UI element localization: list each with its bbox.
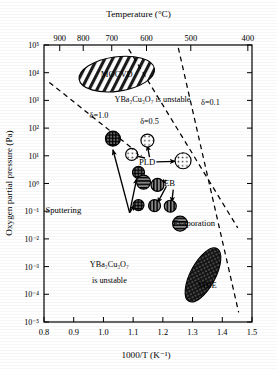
x-tick-label: 1.5 bbox=[247, 328, 257, 337]
x-tick-label: 0.9 bbox=[68, 328, 78, 337]
top-tick-label: 500 bbox=[185, 34, 198, 43]
marker-sputtering-f bbox=[133, 200, 144, 211]
x-tick-label: 1.4 bbox=[217, 328, 228, 337]
chart-labels: δ=1.0δ=0.5δ=0.1YBa₂Cu₃O₇ is unstableYBa₂… bbox=[45, 69, 219, 290]
y-tick-label: 10⁻⁵ bbox=[24, 318, 39, 327]
marker-sputtering-a bbox=[105, 131, 120, 146]
chart-svg: δ=1.0δ=0.5δ=0.1YBa₂Cu₃O₇ is unstableYBa₂… bbox=[0, 0, 277, 369]
marker-pld-b bbox=[175, 153, 191, 169]
top-tick-label: 900 bbox=[53, 34, 66, 43]
chart-figure: δ=1.0δ=0.5δ=0.1YBa₂Cu₃O₇ is unstableYBa₂… bbox=[0, 0, 277, 369]
annotation-ybco-unstable-lower-line1: YBa₂Cu₃O₇ bbox=[90, 260, 129, 269]
y-tick-label: 10⁵ bbox=[28, 41, 39, 50]
method-label-evaporation: Evaporation bbox=[173, 218, 216, 228]
top-tick-label: 400 bbox=[242, 34, 255, 43]
annotation-ybco-unstable-lower-line2: is unstable bbox=[92, 276, 127, 285]
x-tick-label: 0.8 bbox=[39, 328, 49, 337]
y-tick-label: 10⁰ bbox=[28, 180, 39, 189]
marker-sputtering-b bbox=[126, 148, 138, 160]
marker-pld-a bbox=[141, 134, 154, 147]
y-tick-label: 10⁻¹ bbox=[25, 207, 40, 216]
y-tick-label: 10⁴ bbox=[28, 69, 39, 78]
region-label-mbe: MBE bbox=[198, 280, 217, 290]
top-tick-label: 700 bbox=[105, 34, 118, 43]
y-tick-label: 10⁻³ bbox=[25, 263, 40, 272]
x-axis-title: 1000/T (K⁻¹) bbox=[121, 350, 170, 360]
marker-sputtering-h bbox=[164, 200, 176, 212]
x-tick-label: 1.2 bbox=[158, 328, 168, 337]
annotation-ybco-unstable-upper: YBa₂Cu₃O₇ is unstable bbox=[115, 95, 191, 104]
region-mbe bbox=[178, 243, 228, 308]
marker-sputtering-e bbox=[151, 178, 164, 191]
x-tick-label: 1.3 bbox=[187, 328, 197, 337]
y-tick-label: 10² bbox=[29, 124, 40, 133]
y-axis-title: Oxygen partial pressure (Pa) bbox=[4, 130, 14, 235]
arrow-sputtering-trunk bbox=[113, 150, 130, 213]
method-label-sputtering: Sputtering bbox=[45, 205, 82, 215]
method-label-pld: PLD bbox=[139, 157, 155, 167]
method-label-eb: EB bbox=[164, 178, 175, 188]
marker-sputtering-d bbox=[137, 175, 151, 189]
marker-sputtering-g bbox=[149, 200, 161, 212]
y-tick-label: 10¹ bbox=[29, 152, 40, 161]
top-tick-label: 600 bbox=[140, 34, 153, 43]
annotation-delta-1-0: δ=1.0 bbox=[90, 111, 109, 120]
x-tick-label: 1.1 bbox=[128, 328, 138, 337]
x-tick-label: 1.0 bbox=[98, 328, 108, 337]
region-label-mocvd: MOCVD bbox=[101, 69, 133, 79]
top-tick-label: 800 bbox=[77, 34, 90, 43]
region-ellipses bbox=[77, 52, 228, 307]
y-tick-label: 10⁻² bbox=[25, 235, 40, 244]
top-axis-title: Temperature (°C) bbox=[106, 9, 171, 19]
annotation-delta-0-1: δ=0.1 bbox=[201, 98, 220, 107]
y-tick-label: 10⁻⁴ bbox=[24, 290, 39, 299]
y-tick-label: 10³ bbox=[29, 96, 40, 105]
annotation-delta-0-5: δ=0.5 bbox=[140, 117, 159, 126]
arrow-pld-to-b bbox=[156, 161, 175, 162]
data-markers bbox=[105, 131, 191, 231]
